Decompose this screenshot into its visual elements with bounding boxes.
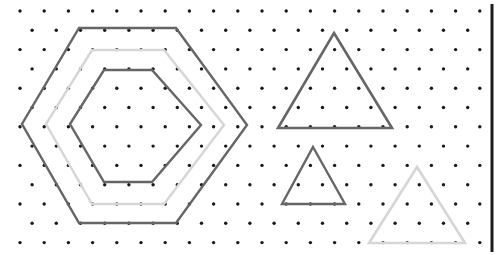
grid-dot bbox=[248, 222, 251, 225]
grid-dot bbox=[236, 9, 239, 12]
grid-dot bbox=[139, 164, 142, 167]
grid-dot bbox=[381, 164, 384, 167]
grid-dot bbox=[454, 48, 457, 51]
grid-dot bbox=[430, 48, 433, 51]
grid-dot bbox=[139, 87, 142, 90]
grid-dot bbox=[393, 222, 396, 225]
grid-dot bbox=[164, 125, 167, 128]
grid-dot bbox=[478, 87, 481, 90]
grid-dot bbox=[393, 144, 396, 147]
grid-dot bbox=[369, 144, 372, 147]
grid-dot bbox=[381, 202, 384, 205]
grid-dot bbox=[30, 183, 33, 186]
grid-dot bbox=[345, 67, 348, 70]
grid-dot bbox=[442, 144, 445, 147]
grid-dot bbox=[91, 9, 94, 12]
grid-dot bbox=[345, 144, 348, 147]
grid-dot bbox=[164, 9, 167, 12]
grid-dot bbox=[418, 67, 421, 70]
grid-dot bbox=[18, 87, 21, 90]
grid-dot bbox=[55, 222, 58, 225]
grid-dot bbox=[297, 67, 300, 70]
grid-dot bbox=[309, 48, 312, 51]
grid-dot bbox=[357, 164, 360, 167]
grid-dot bbox=[321, 144, 324, 147]
grid-dot bbox=[478, 241, 481, 244]
grid-dot bbox=[466, 29, 469, 32]
grid-dot bbox=[333, 164, 336, 167]
grid-dot bbox=[309, 241, 312, 244]
grid-dot bbox=[272, 144, 275, 147]
grid-dot bbox=[381, 87, 384, 90]
grid-dot bbox=[285, 241, 288, 244]
grid-dot bbox=[212, 202, 215, 205]
grid-dot bbox=[321, 29, 324, 32]
grid-dot bbox=[285, 87, 288, 90]
grid-dot bbox=[345, 29, 348, 32]
grid-dot bbox=[393, 183, 396, 186]
grid-dot bbox=[67, 241, 70, 244]
grid-dot bbox=[406, 9, 409, 12]
grid-dot bbox=[18, 125, 21, 128]
grid-dot bbox=[393, 106, 396, 109]
grid-dot bbox=[333, 48, 336, 51]
grid-dot bbox=[139, 125, 142, 128]
grid-dot bbox=[297, 106, 300, 109]
grid-dot bbox=[188, 9, 191, 12]
grid-dot bbox=[272, 222, 275, 225]
grid-dot bbox=[321, 183, 324, 186]
grid-dot bbox=[357, 241, 360, 244]
grid-dot bbox=[297, 29, 300, 32]
grid-dot bbox=[200, 67, 203, 70]
grid-dot bbox=[369, 67, 372, 70]
grid-dot bbox=[103, 183, 106, 186]
grid-dot bbox=[55, 29, 58, 32]
grid-dot bbox=[442, 67, 445, 70]
grid-dot bbox=[466, 144, 469, 147]
grid-dot bbox=[478, 125, 481, 128]
grid-dot bbox=[430, 125, 433, 128]
grid-dot bbox=[236, 164, 239, 167]
grid-dot bbox=[200, 106, 203, 109]
grid-dot bbox=[309, 87, 312, 90]
grid-dot bbox=[442, 183, 445, 186]
grid-dot bbox=[18, 164, 21, 167]
grid-dot bbox=[406, 202, 409, 205]
grid-dot bbox=[442, 106, 445, 109]
grid-dot bbox=[454, 9, 457, 12]
grid-dot bbox=[454, 125, 457, 128]
grid-dot bbox=[442, 222, 445, 225]
grid-dot bbox=[406, 164, 409, 167]
grid-dot bbox=[466, 106, 469, 109]
grid-dot bbox=[357, 87, 360, 90]
grid-dot bbox=[406, 48, 409, 51]
grid-dot bbox=[369, 106, 372, 109]
grid-dot bbox=[466, 183, 469, 186]
grid-dot bbox=[430, 164, 433, 167]
grid-dot bbox=[212, 241, 215, 244]
grid-dot bbox=[18, 9, 21, 12]
grid-dot bbox=[430, 202, 433, 205]
grid-dot bbox=[418, 183, 421, 186]
grid-dot bbox=[236, 87, 239, 90]
grid-dot bbox=[454, 87, 457, 90]
grid-dot bbox=[224, 106, 227, 109]
grid-dot bbox=[357, 48, 360, 51]
grid-dot bbox=[139, 241, 142, 244]
grid-dot bbox=[43, 241, 46, 244]
grid-dot bbox=[393, 29, 396, 32]
grid-dot bbox=[297, 183, 300, 186]
grid-dot bbox=[260, 87, 263, 90]
grid-dot bbox=[248, 144, 251, 147]
grid-dot bbox=[127, 144, 130, 147]
grid-dot bbox=[466, 222, 469, 225]
grid-dot bbox=[91, 241, 94, 244]
grid-dot bbox=[285, 164, 288, 167]
grid-dot bbox=[381, 9, 384, 12]
grid-dot bbox=[224, 144, 227, 147]
grid-dot bbox=[200, 29, 203, 32]
grid-dot bbox=[248, 183, 251, 186]
grid-dot bbox=[418, 144, 421, 147]
grid-dot bbox=[357, 9, 360, 12]
grid-dot bbox=[333, 87, 336, 90]
